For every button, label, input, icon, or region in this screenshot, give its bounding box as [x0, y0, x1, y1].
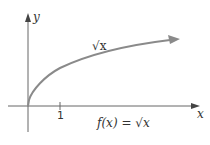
- function-caption: f(x) = √x: [97, 117, 150, 129]
- y-axis-label: y: [33, 11, 40, 23]
- curve-arrow-icon: [168, 35, 180, 44]
- x-axis-label: x: [197, 108, 204, 120]
- y-axis-arrow-icon: [25, 13, 31, 22]
- tick-label-1: 1: [57, 110, 64, 121]
- curve-label: √x: [92, 40, 106, 52]
